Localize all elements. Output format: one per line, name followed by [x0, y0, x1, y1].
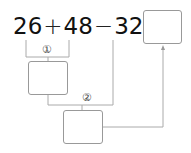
step-2-result-box[interactable]	[63, 110, 103, 144]
step-1-marker: ①	[42, 43, 52, 56]
operand-2: 48	[64, 13, 93, 39]
plus-operator: +	[43, 13, 62, 39]
operand-3: 32	[114, 13, 143, 39]
expression: 26+48−32=	[13, 13, 165, 39]
operand-1: 26	[13, 13, 42, 39]
final-answer-box[interactable]	[143, 10, 182, 44]
step-2-marker: ②	[82, 91, 92, 104]
minus-operator: −	[94, 13, 113, 39]
step-1-result-box[interactable]	[28, 61, 68, 95]
